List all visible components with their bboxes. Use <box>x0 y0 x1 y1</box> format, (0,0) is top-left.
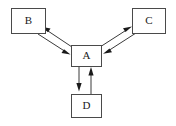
edge-a-to-d-arrowhead <box>76 83 81 92</box>
edge-pair-a-d <box>76 66 93 94</box>
edge-a-to-b <box>42 27 73 47</box>
node-c[interactable]: C <box>133 9 166 34</box>
edge-d-to-a-arrowhead <box>88 67 93 76</box>
node-b-label: B <box>25 14 32 26</box>
edge-c-to-a-line <box>108 33 136 51</box>
edge-d-to-a <box>88 67 93 94</box>
edge-a-to-c <box>100 27 132 48</box>
edge-c-to-a <box>103 33 136 54</box>
diagram-canvas: B C A D <box>0 0 176 126</box>
edge-a-to-d <box>76 66 81 92</box>
node-a[interactable]: A <box>72 46 102 67</box>
node-a-label: A <box>83 49 91 61</box>
node-b[interactable]: B <box>12 9 46 34</box>
node-d[interactable]: D <box>72 95 102 118</box>
edge-pair-a-c <box>100 27 136 54</box>
node-d-label: D <box>83 99 91 111</box>
edge-b-to-a-line <box>38 34 66 52</box>
edge-a-to-c-line <box>100 29 128 47</box>
node-c-label: C <box>145 14 152 26</box>
node-edge-diagram: B C A D <box>0 0 176 126</box>
edge-b-to-a <box>38 34 71 55</box>
edge-a-to-b-line <box>45 29 72 47</box>
